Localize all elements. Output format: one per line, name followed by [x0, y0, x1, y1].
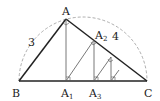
label-side-ac: 4 [112, 30, 119, 43]
right-angle-mark [108, 59, 113, 62]
perp-a1-a2 [66, 40, 94, 81]
label-b: B [12, 87, 20, 100]
label-a1: A1 [60, 87, 73, 101]
label-a3: A3 [88, 87, 101, 101]
label-c: C [144, 87, 152, 100]
geometry-diagram: A B C 3 4 A1 A2 A3 [0, 0, 160, 101]
side-ab [19, 19, 66, 81]
label-a2: A2 [94, 29, 107, 43]
label-a: A [61, 5, 71, 18]
perp-a3-a4 [94, 57, 111, 81]
right-angle-mark [91, 42, 96, 45]
label-side-ab: 3 [28, 36, 35, 49]
semicircle-arc [19, 17, 147, 81]
side-ac [66, 19, 147, 81]
